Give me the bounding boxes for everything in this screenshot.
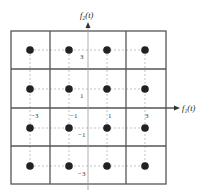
signal-point — [103, 124, 111, 132]
constellation-diagram: f₂(t) f₁(t) −3 −1 1 3 3 1 −1 −3 — [0, 0, 208, 195]
x-tick-label: 3 — [145, 112, 149, 120]
signal-point — [65, 162, 73, 170]
signal-point — [26, 124, 34, 132]
signal-point — [141, 124, 149, 132]
signal-point — [65, 46, 73, 54]
x-tick-label: −1 — [70, 112, 78, 120]
y-tick-label: 1 — [80, 92, 84, 100]
y-tick-label: −3 — [78, 170, 86, 178]
x-tick-label: 1 — [108, 112, 112, 120]
signal-point — [103, 85, 111, 93]
signal-point — [26, 162, 34, 170]
y-tick-label: −1 — [78, 131, 86, 139]
signal-point — [103, 162, 111, 170]
signal-point — [141, 85, 149, 93]
signal-point — [141, 162, 149, 170]
y-axis-label: f₂(t) — [80, 10, 94, 20]
signal-point — [65, 85, 73, 93]
x-tick-label: −3 — [31, 112, 39, 120]
signal-point — [141, 46, 149, 54]
y-tick-label: 3 — [80, 53, 84, 61]
x-axis-label: f₁(t) — [182, 103, 196, 113]
signal-point — [65, 124, 73, 132]
signal-point — [26, 46, 34, 54]
y-axis-arrow-icon — [86, 22, 91, 28]
signal-point — [26, 85, 34, 93]
signal-point — [103, 46, 111, 54]
x-axis-arrow-icon — [174, 106, 180, 111]
